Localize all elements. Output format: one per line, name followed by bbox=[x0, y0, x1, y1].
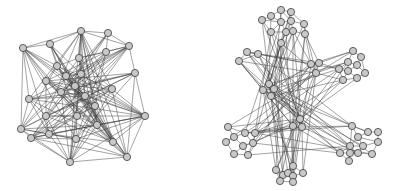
graph-edge bbox=[31, 138, 76, 139]
graph-node bbox=[353, 74, 360, 81]
graph-node bbox=[315, 59, 322, 66]
graph-node bbox=[348, 122, 355, 129]
graph-node bbox=[282, 28, 289, 35]
graph-node bbox=[374, 138, 381, 145]
graph-edge bbox=[269, 84, 372, 154]
graph-node bbox=[45, 130, 52, 137]
graph-node bbox=[75, 54, 82, 61]
graph-node bbox=[354, 133, 361, 140]
graph-node bbox=[17, 125, 24, 132]
graph-node bbox=[346, 149, 353, 156]
graph-node bbox=[46, 40, 53, 47]
graph-node bbox=[125, 42, 132, 49]
graph-node bbox=[349, 47, 356, 54]
graph-node bbox=[235, 57, 242, 64]
graph-node bbox=[354, 149, 361, 156]
graph-node bbox=[71, 82, 78, 89]
graph-node bbox=[368, 150, 375, 157]
graph-node bbox=[254, 50, 261, 57]
graph-node bbox=[270, 85, 277, 92]
dense-random-graph bbox=[17, 27, 148, 165]
graph-edge bbox=[129, 46, 135, 73]
graph-node bbox=[77, 27, 84, 34]
graph-node bbox=[289, 27, 296, 34]
right-graph-nodes bbox=[222, 6, 381, 185]
graph-node bbox=[312, 69, 319, 76]
graph-edge bbox=[76, 139, 127, 157]
graph-node bbox=[277, 39, 284, 46]
graph-node bbox=[222, 138, 229, 145]
graph-node bbox=[230, 133, 237, 140]
graph-edge bbox=[135, 73, 145, 116]
graph-node bbox=[335, 65, 342, 72]
graph-node bbox=[57, 88, 64, 95]
graph-edge bbox=[70, 157, 127, 162]
graph-node bbox=[374, 128, 381, 135]
graph-node bbox=[93, 121, 100, 128]
graph-node bbox=[289, 162, 296, 169]
graph-edge bbox=[127, 73, 135, 157]
graph-node bbox=[25, 95, 32, 102]
graph-node bbox=[77, 70, 84, 77]
graph-node bbox=[141, 112, 148, 119]
graph-node bbox=[27, 134, 34, 141]
graph-node bbox=[42, 77, 49, 84]
graph-node bbox=[357, 53, 364, 60]
graph-node bbox=[230, 150, 237, 157]
graph-node bbox=[289, 122, 296, 129]
graph-node bbox=[249, 139, 256, 146]
graph-node bbox=[104, 29, 111, 36]
graph-node bbox=[301, 30, 308, 37]
graph-node bbox=[339, 76, 346, 83]
graph-node bbox=[361, 69, 368, 76]
graph-node bbox=[277, 18, 284, 25]
graph-node bbox=[267, 28, 274, 35]
graph-edge bbox=[293, 34, 305, 166]
graph-node bbox=[224, 123, 231, 130]
graph-node bbox=[123, 153, 130, 160]
graph-node bbox=[346, 142, 353, 149]
graph-edge bbox=[316, 73, 343, 80]
graph-node bbox=[277, 6, 284, 13]
graph-node bbox=[91, 102, 98, 109]
graph-node bbox=[267, 12, 274, 19]
network-diagram bbox=[0, 0, 394, 191]
graph-node bbox=[258, 16, 265, 23]
graph-node bbox=[307, 60, 314, 67]
graph-node bbox=[344, 58, 351, 65]
graph-node bbox=[81, 92, 88, 99]
graph-node bbox=[131, 69, 138, 76]
graph-node bbox=[259, 86, 266, 93]
graph-node bbox=[299, 169, 306, 176]
graph-node bbox=[73, 112, 80, 119]
graph-node bbox=[364, 128, 371, 135]
graph-edge bbox=[23, 44, 50, 48]
graph-node bbox=[353, 61, 360, 68]
graph-node bbox=[272, 166, 279, 173]
clustered-graph bbox=[222, 6, 381, 185]
graph-edge bbox=[127, 116, 145, 157]
graph-node bbox=[287, 17, 294, 24]
graph-node bbox=[53, 62, 60, 69]
graph-node bbox=[287, 8, 294, 15]
graph-node bbox=[239, 142, 246, 149]
left-graph-nodes bbox=[17, 27, 148, 165]
graph-node bbox=[336, 149, 343, 156]
graph-node bbox=[359, 142, 366, 149]
graph-node bbox=[108, 85, 115, 92]
graph-node bbox=[251, 129, 258, 136]
graph-edge bbox=[300, 78, 357, 119]
graph-node bbox=[62, 72, 69, 79]
graph-node bbox=[19, 44, 26, 51]
graph-node bbox=[276, 177, 283, 184]
graph-edge bbox=[245, 22, 281, 133]
graph-edge bbox=[23, 48, 61, 92]
graph-node bbox=[300, 20, 307, 27]
graph-node bbox=[42, 112, 49, 119]
graph-node bbox=[241, 129, 248, 136]
graph-node bbox=[102, 48, 109, 55]
graph-node bbox=[244, 151, 251, 158]
graph-node bbox=[66, 158, 73, 165]
graph-node bbox=[298, 123, 305, 130]
graph-edge bbox=[21, 48, 23, 129]
